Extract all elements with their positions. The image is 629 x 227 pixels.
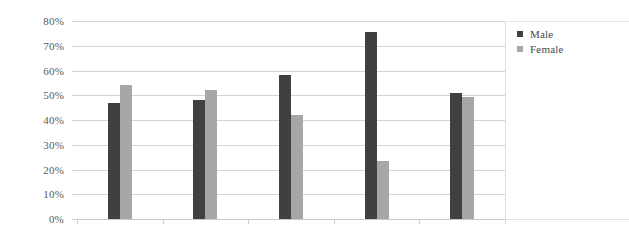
- bar-male-3: [279, 75, 291, 219]
- bar-male-1: [108, 103, 120, 219]
- bar-female-5: [462, 97, 474, 220]
- y-axis-tick: [72, 194, 77, 195]
- x-axis-tick: [248, 219, 249, 224]
- bar-chart: 80%70%60%50%40%30%20%10%0% MaleFemale: [0, 0, 629, 227]
- y-axis-tick: [72, 71, 77, 72]
- gridline: [77, 21, 505, 22]
- y-axis-tick: [72, 46, 77, 47]
- gridline: [77, 219, 505, 220]
- legend-label: Female: [530, 43, 564, 55]
- bar-male-4: [365, 32, 377, 219]
- y-axis-tick-label: 50%: [43, 89, 64, 101]
- bar-female-4: [377, 161, 389, 219]
- plot-right-border: [505, 21, 506, 220]
- plot-area: [77, 21, 505, 219]
- y-axis-tick: [72, 145, 77, 146]
- x-axis-tick: [505, 219, 506, 224]
- y-axis-tick: [72, 170, 77, 171]
- y-axis-tick-label: 0%: [49, 213, 64, 225]
- legend-swatch-male-icon: [517, 31, 523, 37]
- y-axis-tick-label: 60%: [43, 65, 64, 77]
- x-axis-tick: [163, 219, 164, 224]
- x-axis-tick: [419, 219, 420, 224]
- y-axis-tick-label: 10%: [43, 188, 64, 200]
- chart-legend: MaleFemale: [517, 27, 564, 57]
- y-axis-tick-label: 40%: [43, 114, 64, 126]
- legend-swatch-female-icon: [517, 46, 523, 52]
- bar-male-2: [193, 100, 205, 219]
- legend-label: Male: [530, 28, 553, 40]
- legend-item-male[interactable]: Male: [517, 27, 564, 41]
- y-axis-tick-label: 30%: [43, 139, 64, 151]
- y-axis: 80%70%60%50%40%30%20%10%0%: [0, 0, 72, 227]
- x-axis-tick: [77, 219, 78, 224]
- y-axis-tick-label: 70%: [43, 40, 64, 52]
- baseline-extension: [505, 219, 629, 220]
- top-rule-right: [505, 21, 629, 22]
- y-axis-tick-label: 80%: [43, 15, 64, 27]
- y-axis-tick: [72, 120, 77, 121]
- bar-female-2: [205, 90, 217, 219]
- gridline: [77, 95, 505, 96]
- y-axis-tick: [72, 95, 77, 96]
- x-axis-tick: [334, 219, 335, 224]
- y-axis-tick-label: 20%: [43, 164, 64, 176]
- gridline: [77, 71, 505, 72]
- bar-male-5: [450, 93, 462, 219]
- gridline: [77, 46, 505, 47]
- bar-female-1: [120, 85, 132, 219]
- y-axis-tick: [72, 21, 77, 22]
- legend-item-female[interactable]: Female: [517, 42, 564, 56]
- bar-female-3: [291, 115, 303, 219]
